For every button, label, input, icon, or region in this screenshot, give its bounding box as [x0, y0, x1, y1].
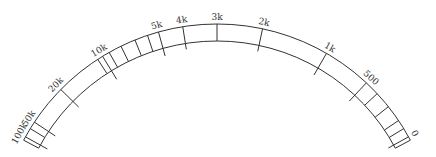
major-tick: [158, 32, 165, 56]
tick-label: 0: [409, 129, 421, 139]
tick-label: 3k: [211, 12, 223, 22]
tick-label: 50k: [20, 108, 38, 128]
major-tick: [258, 29, 263, 51]
tick-label: 4k: [175, 14, 188, 26]
minor-tick: [121, 46, 128, 61]
minor-tick: [148, 35, 153, 51]
tick-label: 2k: [257, 16, 271, 28]
minor-tick: [30, 129, 44, 138]
minor-tick: [389, 129, 403, 138]
major-tick: [103, 56, 117, 79]
minor-tick: [384, 121, 398, 131]
minor-tick: [365, 94, 377, 106]
minor-tick: [375, 107, 388, 118]
tick-label: 5k: [150, 19, 164, 32]
right-end-cap: [395, 140, 410, 148]
minor-tick: [135, 40, 141, 56]
major-tick: [34, 122, 55, 136]
arc-scale-diagram: 100k50k20k10k5k4k3k2k1k5000: [0, 0, 436, 157]
scale-ticks: [25, 24, 408, 149]
scale-arcs: [24, 24, 411, 148]
major-tick: [183, 27, 187, 50]
left-end-cap: [24, 140, 39, 148]
minor-tick: [109, 52, 117, 67]
tick-label: 10k: [89, 41, 109, 59]
